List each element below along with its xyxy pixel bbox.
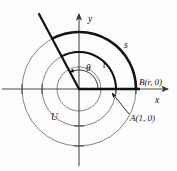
region-label-u: U bbox=[51, 112, 59, 122]
leader-line-to-point-a bbox=[112, 93, 129, 114]
arc-label-t: t bbox=[103, 60, 106, 70]
angle-label-theta: θ bbox=[86, 63, 91, 73]
y-axis-label: y bbox=[87, 14, 93, 24]
arc-label-s: s bbox=[124, 40, 128, 50]
math-figure-container: y x θ s t U A(1, 0) B(r, 0) bbox=[0, 0, 177, 171]
point-label-a: A(1, 0) bbox=[129, 113, 155, 123]
x-axis-label: x bbox=[154, 95, 160, 105]
polar-coordinate-diagram: y x θ s t U A(1, 0) B(r, 0) bbox=[0, 0, 177, 171]
point-label-b: B(r, 0) bbox=[139, 77, 162, 87]
